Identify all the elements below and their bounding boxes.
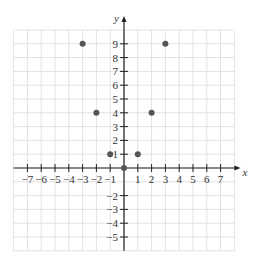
svg-text:7: 7 [113,65,119,77]
scatter-plot: xy−7−6−5−4−3−2−11234567−5−4−3−2123456789 [0,0,266,266]
svg-text:−7: −7 [22,173,34,185]
svg-text:−3: −3 [77,173,89,185]
svg-text:5: 5 [113,93,119,105]
svg-text:4: 4 [176,173,182,185]
svg-text:−4: −4 [106,217,118,229]
data-point [107,151,113,157]
svg-text:1: 1 [113,148,119,160]
data-point [93,110,99,116]
svg-text:6: 6 [113,79,119,91]
svg-text:−5: −5 [49,173,61,185]
svg-text:8: 8 [113,52,119,64]
svg-text:−2: −2 [91,173,103,185]
svg-text:4: 4 [113,107,119,119]
svg-text:−5: −5 [106,231,118,243]
svg-text:3: 3 [163,173,169,185]
svg-text:x: x [241,166,247,178]
svg-text:3: 3 [113,121,119,133]
svg-text:−2: −2 [106,190,118,202]
data-point [135,151,141,157]
data-point [121,165,127,171]
svg-text:−6: −6 [35,173,47,185]
svg-text:1: 1 [135,173,141,185]
svg-text:y: y [113,12,119,24]
svg-text:7: 7 [218,173,224,185]
data-point [162,41,168,47]
svg-text:5: 5 [190,173,196,185]
svg-text:2: 2 [149,173,155,185]
svg-text:6: 6 [204,173,210,185]
svg-text:−3: −3 [106,203,118,215]
svg-text:−1: −1 [104,173,116,185]
data-point [80,41,86,47]
svg-text:−4: −4 [63,173,75,185]
svg-text:9: 9 [113,38,119,50]
svg-text:2: 2 [113,134,119,146]
data-point [149,110,155,116]
